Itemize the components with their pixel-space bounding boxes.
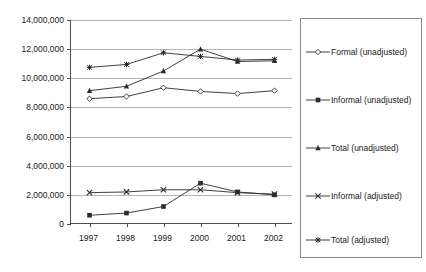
y-axis-label: 0 [2, 220, 64, 229]
marker-diamond-hollow [87, 96, 92, 101]
legend-item[interactable]: Informal (unadjusted) [305, 93, 421, 107]
y-axis-label: 10,000,000 [2, 74, 64, 83]
legend-item[interactable]: Informal (adjusted) [305, 189, 421, 203]
legend-item[interactable]: Formal (unadjusted) [305, 45, 421, 59]
marker-triangle-filled [161, 68, 166, 73]
marker-diamond-hollow [198, 89, 203, 94]
legend-label: Informal (unadjusted) [331, 96, 411, 105]
series-1 [87, 181, 277, 218]
marker-asterisk-star [161, 50, 166, 55]
plot-area [70, 20, 292, 224]
marker-asterisk-star [315, 237, 320, 242]
legend-marker-cross-x-icon [305, 190, 331, 202]
marker-diamond-hollow [235, 91, 240, 96]
legend-marker-asterisk-star-icon [305, 234, 331, 246]
legend-marker-triangle-filled-icon [305, 142, 331, 154]
legend-item[interactable]: Total (adjusted) [305, 233, 421, 247]
series-2 [87, 46, 277, 93]
marker-diamond-hollow [124, 94, 129, 99]
series-line [90, 190, 275, 194]
chart-legend: Formal (unadjusted)Informal (unadjusted)… [300, 18, 422, 258]
x-axis-label: 2001 [212, 234, 262, 243]
series-line [90, 183, 275, 215]
line-chart: 02,000,0004,000,0006,000,0008,000,00010,… [0, 0, 296, 272]
marker-asterisk-star [124, 62, 129, 67]
marker-diamond-hollow [161, 85, 166, 90]
series-line [90, 49, 275, 91]
y-axis-tick [67, 224, 71, 225]
series-layer [71, 20, 293, 224]
marker-asterisk-star [87, 65, 92, 70]
legend-item[interactable]: Total (unadjusted) [305, 141, 421, 155]
y-axis-label: 14,000,000 [2, 16, 64, 25]
x-axis-label: 1997 [64, 234, 114, 243]
x-axis-label: 1999 [138, 234, 188, 243]
y-axis-label: 4,000,000 [2, 162, 64, 171]
marker-diamond-hollow [272, 88, 277, 93]
marker-asterisk-star [272, 57, 277, 62]
marker-square-filled [87, 213, 92, 218]
y-axis-label: 2,000,000 [2, 191, 64, 200]
marker-square-filled [161, 204, 166, 209]
marker-asterisk-star [235, 57, 240, 62]
legend-marker-diamond-hollow-icon [305, 46, 331, 58]
x-axis-label: 2000 [175, 234, 225, 243]
y-axis-label: 12,000,000 [2, 45, 64, 54]
marker-asterisk-star [198, 54, 203, 59]
legend-label: Informal (adjusted) [331, 192, 402, 201]
y-axis-label: 6,000,000 [2, 133, 64, 142]
legend-label: Formal (unadjusted) [331, 48, 407, 57]
x-axis-label: 1998 [101, 234, 151, 243]
marker-square-filled [316, 98, 321, 103]
legend-label: Total (adjusted) [331, 236, 389, 245]
marker-square-filled [124, 211, 129, 216]
series-line [90, 88, 275, 99]
marker-diamond-hollow [315, 49, 320, 54]
y-axis-label: 8,000,000 [2, 103, 64, 112]
chart-screenshot: 02,000,0004,000,0006,000,0008,000,00010,… [0, 0, 426, 272]
legend-marker-square-filled-icon [305, 94, 331, 106]
x-axis-label: 2002 [249, 234, 299, 243]
legend-label: Total (unadjusted) [331, 144, 399, 153]
marker-square-filled [198, 181, 203, 186]
marker-triangle-filled [198, 46, 203, 51]
